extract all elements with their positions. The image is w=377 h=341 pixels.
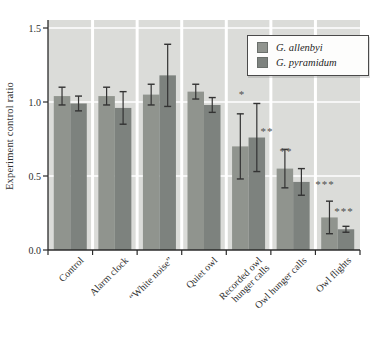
significance-mark: *** — [334, 205, 354, 217]
legend-item: G. pyramidum — [257, 55, 360, 70]
x-category-label: Quiet owl — [184, 254, 220, 290]
legend-swatch-allenbyi-icon — [257, 42, 268, 53]
legend-label: G. allenbyi — [276, 42, 323, 53]
x-category-label: “White noise” — [127, 255, 175, 303]
y-tick-label: 1.5 — [29, 23, 42, 34]
bar-G--allenbyi-2 — [143, 95, 160, 250]
legend-label: G. pyramidum — [276, 57, 337, 68]
bar-G--pyramidum-3 — [204, 105, 221, 250]
x-category-label: Alarm clock — [87, 255, 130, 298]
bar-G--allenbyi-1 — [98, 96, 115, 250]
significance-mark: *** — [315, 178, 335, 190]
y-axis-title: Experiment control ratio — [4, 36, 18, 236]
significance-mark: ** — [280, 145, 293, 157]
significance-mark: ** — [261, 125, 274, 137]
bar-G--allenbyi-0 — [54, 96, 71, 250]
legend-swatch-pyramidum-icon — [257, 57, 268, 68]
x-category-label: Owl flights — [313, 255, 353, 295]
bar-G--pyramidum-1 — [115, 108, 132, 250]
bar-G--pyramidum-0 — [70, 103, 87, 250]
y-tick-label: 0.5 — [29, 171, 42, 182]
bar-G--allenbyi-3 — [188, 92, 205, 250]
significance-mark: * — [239, 88, 246, 100]
y-tick-label: 1.0 — [29, 97, 42, 108]
bar-chart-figure: ***********0.00.51.01.5ControlAlarm cloc… — [0, 0, 377, 341]
legend-item: G. allenbyi — [257, 40, 360, 55]
y-tick-label: 0.0 — [29, 245, 42, 256]
x-category-label: Control — [56, 254, 86, 284]
legend: G. allenbyi G. pyramidum — [247, 35, 369, 76]
